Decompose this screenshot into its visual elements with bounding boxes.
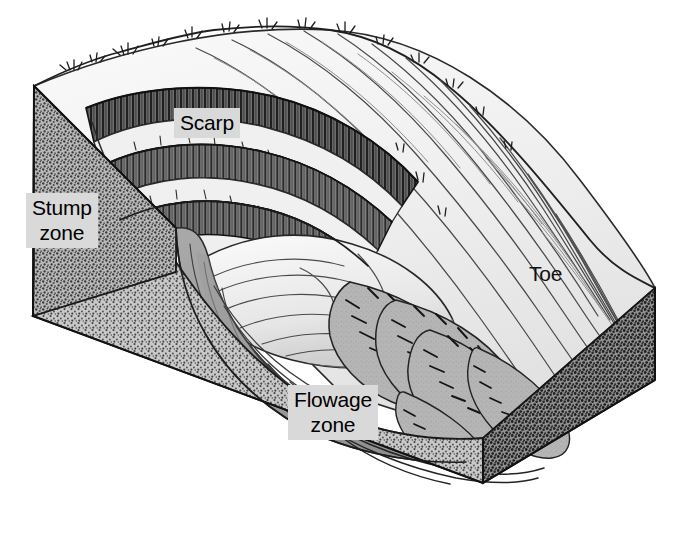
diagram-canvas bbox=[0, 0, 681, 538]
landslide-block-diagram: Scarp Stump zone Flowage zone Toe bbox=[0, 0, 681, 538]
label-scarp: Scarp bbox=[174, 108, 240, 138]
label-stump-zone: Stump zone bbox=[26, 193, 98, 248]
label-flowage-zone: Flowage zone bbox=[288, 385, 378, 440]
label-toe: Toe bbox=[529, 261, 562, 286]
